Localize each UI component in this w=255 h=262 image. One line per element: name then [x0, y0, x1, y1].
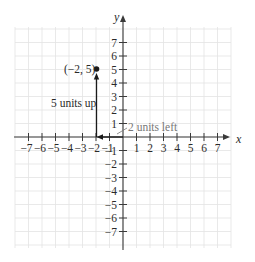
- x-tick-label: −7: [20, 142, 32, 154]
- x-tick-label: 3: [161, 142, 167, 154]
- y-tick-label: −3: [105, 172, 117, 184]
- y-tick-label: 3: [111, 91, 117, 103]
- x-tick-label: 1: [134, 142, 140, 154]
- y-tick-label: 1: [111, 118, 117, 130]
- y-tick-label: −4: [105, 185, 117, 197]
- x-tick-label: −3: [74, 142, 86, 154]
- y-tick-label: −6: [105, 212, 117, 224]
- y-tick-label: 7: [111, 37, 117, 49]
- point-label: (−2, 5): [64, 63, 96, 76]
- x-tick-label: 6: [201, 142, 207, 154]
- y-tick-label: −5: [105, 199, 117, 211]
- x-tick-label: −4: [61, 142, 73, 154]
- y-axis-label: y: [113, 10, 120, 24]
- leader-line: [117, 128, 127, 134]
- y-tick-label: 6: [111, 50, 117, 62]
- x-tick-label: 4: [174, 142, 180, 154]
- horizontal-move-label: 2 units left: [128, 121, 178, 133]
- x-tick-label: 2: [147, 142, 153, 154]
- x-tick-label: −2: [88, 142, 100, 154]
- x-tick-label: −5: [47, 142, 59, 154]
- vertical-move-label: 5 units up: [51, 97, 97, 110]
- y-tick-label: 2: [111, 104, 117, 116]
- x-axis-arrow-icon: [223, 134, 230, 140]
- y-tick-label: 5: [111, 64, 117, 76]
- x-tick-label: −6: [34, 142, 46, 154]
- x-axis-label: x: [235, 132, 242, 146]
- left-arrowhead-icon: [97, 134, 104, 139]
- coordinate-plane: x y −7−6−5−4−3−2−112345677654321−1−2−3−4…: [0, 0, 255, 262]
- y-tick-label: 4: [111, 77, 117, 89]
- x-tick-label: 5: [188, 142, 194, 154]
- y-tick-label: −7: [105, 226, 117, 238]
- y-tick-label: −1: [105, 145, 117, 157]
- y-tick-label: −2: [105, 158, 117, 170]
- y-axis-arrow-icon: [120, 15, 126, 22]
- x-tick-label: 7: [215, 142, 221, 154]
